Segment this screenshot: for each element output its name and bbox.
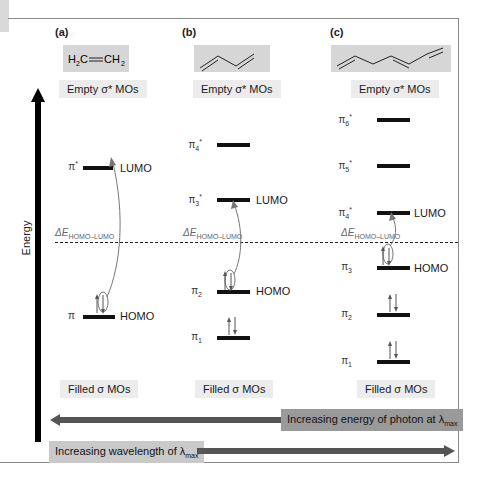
empty-sigma-label-c: Empty σ* MOs: [351, 80, 439, 98]
level-name-a-pi: π: [45, 310, 75, 321]
svg-text:CH: CH: [104, 53, 120, 65]
wavelength-arrow-label: Increasing wavelength of λmax: [49, 441, 204, 463]
filled-sigma-label-b: Filled σ MOs: [195, 380, 273, 398]
level-name-b-pi1: π1: [172, 331, 202, 344]
hexatriene-structure-icon: [331, 45, 451, 72]
level-c-pi5-star: [377, 164, 410, 168]
transition-arrow-b-icon: [220, 200, 260, 292]
lumo-label-b: LUMO: [256, 194, 288, 206]
panel-a-label: (a): [55, 26, 68, 38]
energy-left-arrow-icon: [50, 413, 285, 427]
level-c-pi2: [377, 313, 410, 317]
level-c-pi1: [377, 360, 410, 364]
level-name-a-pi-star: π*: [48, 160, 78, 172]
homo-label-c: HOMO: [414, 262, 448, 274]
empty-sigma-label-a: Empty σ* MOs: [59, 80, 147, 98]
energy-axis-arrow-icon: [30, 88, 46, 442]
homo-label-b: HOMO: [256, 285, 290, 297]
level-c-pi6-star: [377, 118, 410, 122]
panel-c-label: (c): [330, 26, 343, 38]
level-name-b-pi2: π2: [172, 285, 202, 298]
svg-text:C: C: [80, 53, 88, 65]
level-name-c-pi5-star: π5*: [322, 159, 352, 173]
panel-b-label: (b): [182, 26, 196, 38]
level-name-c-pi6-star: π6*: [322, 113, 352, 127]
electron-pair-c-pi1-icon: [386, 340, 402, 360]
transition-arrow-a-icon: [85, 155, 125, 317]
level-name-c-pi2: π2: [322, 308, 352, 321]
butadiene-structure-icon: [194, 45, 270, 72]
transition-arrow-c-icon: [380, 212, 410, 268]
homo-label-a: HOMO: [120, 310, 154, 322]
molecule-ethylene: H 2 C CH 2: [63, 45, 129, 72]
level-name-b-pi3-star: π3*: [172, 193, 202, 207]
level-name-c-pi1: π1: [322, 355, 352, 368]
svg-text:H: H: [68, 53, 76, 65]
electron-pair-c-pi2-icon: [386, 293, 402, 313]
level-b-pi4-star: [217, 143, 250, 147]
energy-arrow-label: Increasing energy of photon at λmax: [281, 409, 463, 431]
level-name-c-pi3: π3: [322, 261, 352, 274]
filled-sigma-label-a: Filled σ MOs: [60, 380, 138, 398]
electron-pair-b-pi1-icon: [225, 316, 241, 336]
ethylene-structure-icon: H 2 C CH 2: [63, 45, 129, 72]
corner-tab: [0, 0, 9, 32]
svg-text:2: 2: [121, 60, 125, 67]
level-b-pi1: [217, 336, 250, 340]
frame-top-border: [8, 18, 459, 19]
level-name-b-pi4-star: π4*: [172, 138, 202, 152]
frame-right-border: [458, 18, 459, 463]
wavelength-right-arrow-icon: [197, 444, 455, 458]
empty-sigma-label-b: Empty σ* MOs: [193, 80, 281, 98]
filled-sigma-label-c: Filled σ MOs: [357, 380, 435, 398]
molecule-butadiene: [194, 45, 270, 72]
level-name-c-pi4-star: π4*: [322, 206, 352, 220]
energy-axis-label: Energy: [20, 218, 32, 258]
molecule-hexatriene: [331, 45, 451, 72]
lumo-label-c: LUMO: [414, 207, 446, 219]
